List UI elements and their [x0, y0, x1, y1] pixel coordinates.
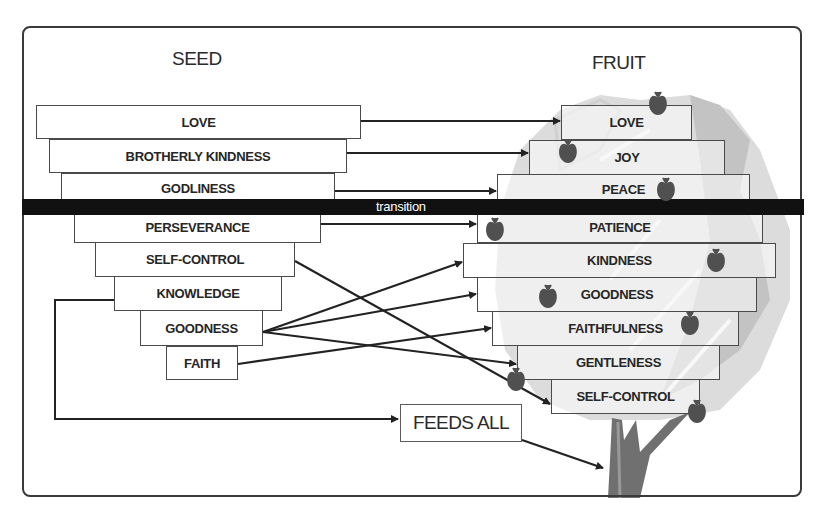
- apple-icon: [486, 218, 504, 241]
- connector-layer: [0, 0, 825, 525]
- apple-icon: [657, 178, 675, 201]
- apple-icon: [688, 400, 706, 423]
- apple-icon: [707, 249, 725, 272]
- apple-icon: [559, 140, 577, 163]
- apple-icon: [539, 285, 557, 308]
- arrow-goodness-gentleness: [263, 332, 516, 364]
- arrow-feeds-all-trunk: [522, 440, 603, 468]
- arrow-goodness-kindness: [263, 262, 462, 332]
- arrow-goodness-goodness: [263, 294, 476, 332]
- apple-icon: [507, 368, 525, 391]
- apples: [486, 92, 725, 423]
- apple-icon: [681, 312, 699, 335]
- apple-icon: [649, 92, 667, 115]
